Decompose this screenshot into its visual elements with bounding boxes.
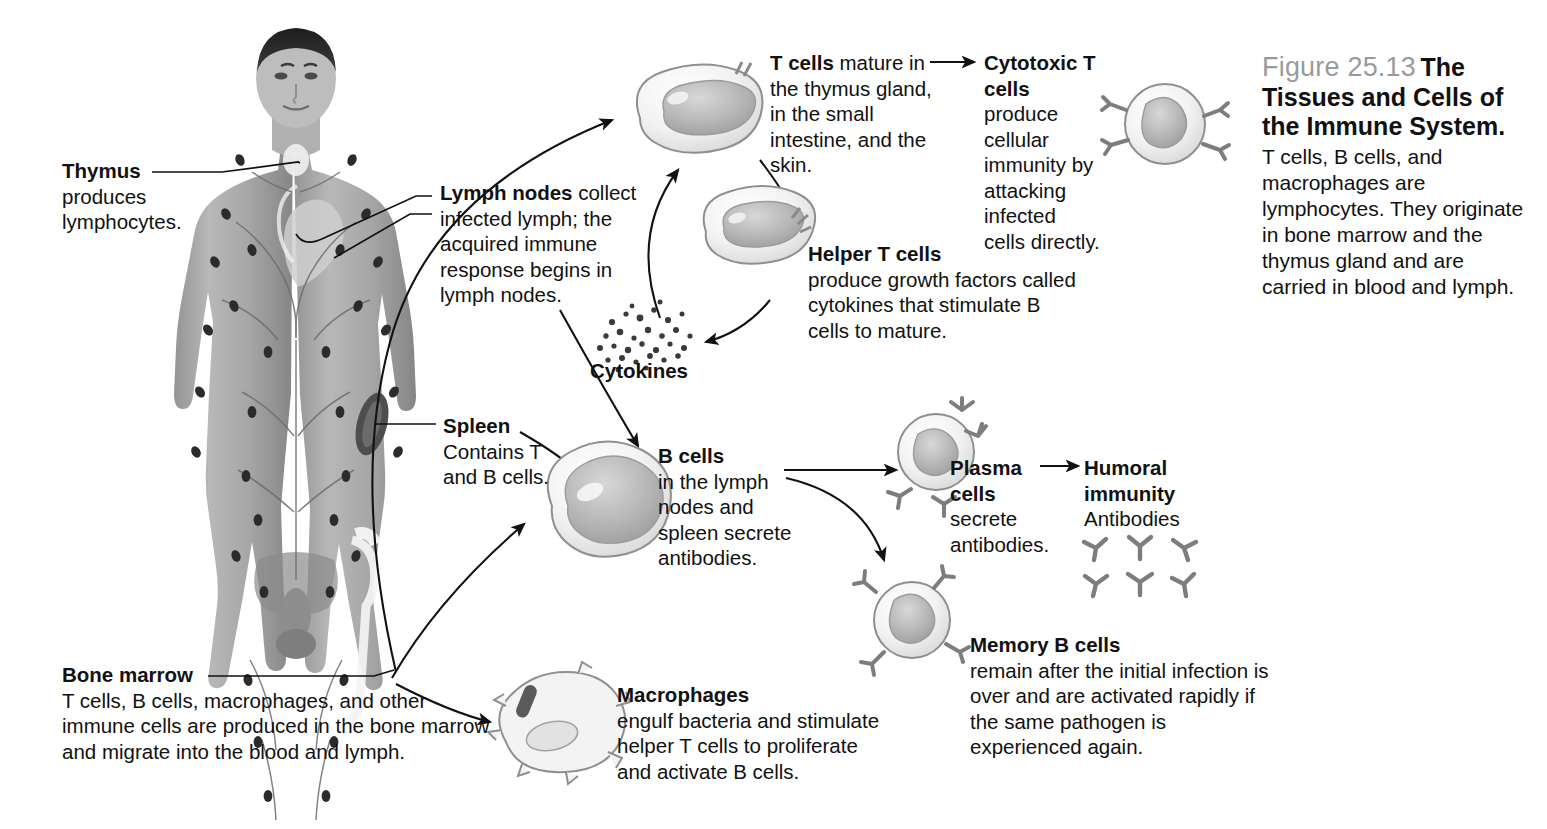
leader-lines [152,162,436,676]
label-t-cells-text: mature in [840,51,925,74]
figure-body: T cells, B cells, and macrophages are ly… [1262,144,1530,300]
memory-b-cell-illustration [854,566,969,675]
figure-canvas: Thymus produces lymphocytes. Lymph nodes… [0,0,1547,829]
label-bone-marrow-text: T cells, B cells, macrophages, and other… [62,689,489,763]
label-thymus: Thymus produces lymphocytes. [62,158,212,235]
t-cell-illustration [637,62,763,153]
flow-arrows [372,62,1078,722]
label-cytotoxic-t-cells: Cytotoxic T cells produce cellular immun… [984,50,1102,254]
label-b-cells-term: B cells [658,444,724,467]
label-lymph-nodes-term: Lymph nodes [440,181,573,204]
helper-t-cell-illustration [704,186,816,264]
label-macrophages: Macrophages engulf bacteria and stimulat… [617,682,889,784]
label-plasma-cells-text: secrete antibodies. [950,507,1049,556]
label-helper-t-cells: Helper T cells produce growth factors ca… [808,241,1086,343]
label-memory-b-cells: Memory B cells remain after the initial … [970,632,1280,760]
figure-caption: Figure 25.13 The Tissues and Cells of th… [1262,52,1530,300]
label-plasma-cells: Plasma cells secrete antibodies. [950,455,1044,557]
cytotoxic-t-cell-illustration [1102,84,1229,164]
label-humoral-immunity: Humoral immunity Antibodies [1084,455,1214,532]
label-cytotoxic-t-cells-term: Cytotoxic T cells [984,51,1096,100]
label-bone-marrow: Bone marrow T cells, B cells, macrophage… [62,662,492,764]
label-macrophages-term: Macrophages [617,683,749,706]
label-memory-b-cells-text: remain after the initial infection is ov… [970,659,1269,759]
label-cytokines: Cytokines [590,358,688,384]
label-humoral-immunity-text: Antibodies [1084,507,1180,530]
label-spleen: Spleen Contains T and B cells. [443,413,553,490]
bacterium-glyph [514,683,539,719]
label-macrophages-text: engulf bacteria and stimulate helper T c… [617,709,879,783]
macrophage-illustration [488,662,630,784]
label-plasma-cells-term: Plasma cells [950,456,1022,505]
label-t-cells-term: T cells [770,51,834,74]
label-t-cells: T cells mature in the thymus gland, in t… [770,50,938,178]
label-b-cells: B cells in the lymph nodes and spleen se… [658,443,810,571]
label-lymph-nodes: Lymph nodes collect infected lymph; the … [440,180,652,308]
label-t-cells-text2: the thymus gland, in the small intestine… [770,77,932,177]
label-b-cells-text: in the lymph nodes and spleen secrete an… [658,470,791,570]
label-humoral-immunity-term: Humoral immunity [1084,456,1175,505]
label-spleen-term: Spleen [443,414,510,437]
label-bone-marrow-term: Bone marrow [62,663,193,686]
label-helper-t-cells-term: Helper T cells [808,242,941,265]
b-cell-illustration [548,441,671,556]
label-cytotoxic-t-cells-text: produce cellular immunity by attacking i… [984,102,1100,253]
label-thymus-text: produces lymphocytes. [62,185,182,234]
figure-number: Figure 25.13 [1262,52,1416,82]
label-spleen-text: Contains T and B cells. [443,440,549,489]
label-memory-b-cells-term: Memory B cells [970,633,1120,656]
humoral-antibodies-illustration [1084,537,1196,596]
label-helper-t-cells-text: produce growth factors called cytokines … [808,268,1076,342]
label-thymus-term: Thymus [62,159,141,182]
